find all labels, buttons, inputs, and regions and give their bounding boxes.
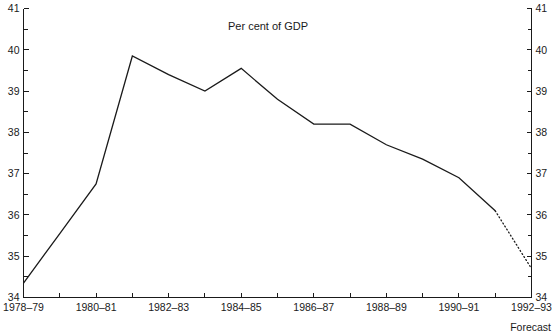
y-axis-label-right: 35 <box>536 250 548 262</box>
y-axis-label-left: 40 <box>8 44 20 56</box>
y-axis-label-right: 38 <box>536 126 548 138</box>
x-axis-label: 1980–81 <box>76 301 117 313</box>
series-line-actual <box>24 56 496 283</box>
chart-container: 3435363738394041 3435363738394041 1978–7… <box>0 0 559 335</box>
y-axis-right-labels: 3435363738394041 <box>536 2 548 303</box>
chart-title: Per cent of GDP <box>228 20 308 32</box>
y-axis-label-left: 36 <box>8 209 20 221</box>
y-axis-left-labels: 3435363738394041 <box>8 2 20 303</box>
chart-axes <box>24 9 532 298</box>
axis-frame <box>24 9 532 298</box>
x-axis-label: 1978–79 <box>3 301 44 313</box>
x-axis-label: 1984–85 <box>221 301 262 313</box>
y-axis-left-ticks <box>24 9 29 298</box>
x-axis-label: 1988–89 <box>366 301 407 313</box>
line-chart: 3435363738394041 3435363738394041 1978–7… <box>0 0 559 335</box>
y-axis-label-right: 41 <box>536 2 548 14</box>
x-axis-label: 1986–87 <box>293 301 334 313</box>
y-axis-right-ticks <box>527 9 532 298</box>
x-axis-labels: 1978–791980–811982–831984–851986–871988–… <box>3 301 552 313</box>
y-axis-label-right: 39 <box>536 85 548 97</box>
y-axis-label-right: 36 <box>536 209 548 221</box>
y-axis-label-left: 38 <box>8 126 20 138</box>
y-axis-label-left: 39 <box>8 85 20 97</box>
forecast-annotation: Forecast <box>510 321 551 333</box>
x-axis-ticks <box>60 293 495 298</box>
x-axis-label: 1990–91 <box>438 301 479 313</box>
y-axis-label-right: 37 <box>536 167 548 179</box>
x-axis-label: 1982–83 <box>148 301 189 313</box>
x-axis-label: 1992–93 <box>511 301 552 313</box>
y-axis-label-right: 40 <box>536 44 548 56</box>
y-axis-label-left: 35 <box>8 250 20 262</box>
series-line-forecast <box>495 211 531 269</box>
y-axis-label-left: 37 <box>8 167 20 179</box>
y-axis-label-left: 41 <box>8 2 20 14</box>
